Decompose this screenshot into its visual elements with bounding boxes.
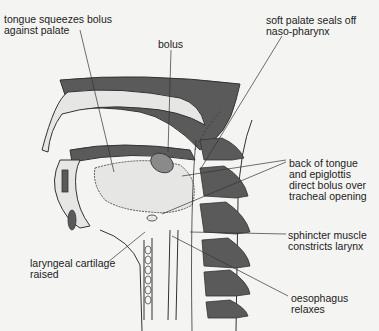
label-laryngeal: laryngeal cartilage raised — [30, 258, 115, 280]
neck-outline — [100, 230, 142, 331]
vertebrae — [200, 138, 250, 318]
label-tongue: tongue squeezes bolus against palate — [4, 14, 112, 36]
front-teeth — [62, 170, 68, 192]
label-back-of-tongue: back of tongue and epiglottis direct bol… — [289, 158, 367, 202]
label-sphincter: sphincter muscle constricts larynx — [288, 230, 367, 252]
epiglottis — [147, 215, 157, 221]
hard-palate — [70, 145, 195, 162]
tongue — [94, 161, 194, 213]
label-soft-palate: soft palate seals off naso-pharynx — [266, 15, 356, 37]
label-bolus: bolus — [158, 39, 183, 50]
spine-front-line — [192, 140, 197, 331]
tracheal-rings — [145, 246, 151, 304]
lower-lip-muscle — [68, 210, 76, 230]
label-oesophagus: oesophagus relaxes — [291, 293, 348, 315]
oesophagus — [168, 230, 178, 320]
